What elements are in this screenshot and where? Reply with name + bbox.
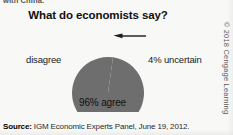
pie-label-uncertain: 4% uncertain (148, 54, 202, 65)
chart-title: What do economists say? (0, 9, 196, 21)
copyright-credit: © 2018 Cengage Learning (220, 18, 232, 118)
callout-arrow-icon (114, 33, 123, 38)
source-line: Source: IGM Economic Experts Panel, June… (3, 122, 189, 131)
source-text: IGM Economic Experts Panel, June 19, 201… (34, 122, 190, 131)
preceding-body-text: with China. (3, 0, 44, 5)
copyright-credit-text: © 2018 Cengage Learning (222, 22, 231, 115)
pie-label-disagree: disagree (26, 54, 61, 65)
figure-container: with China. What do economists say? disa… (0, 0, 233, 135)
pie-label-agree: 96% agree (79, 97, 126, 108)
source-label: Source: (3, 122, 32, 131)
pie-chart-plot-area: disagree 4% uncertain 96% agree (0, 24, 196, 112)
